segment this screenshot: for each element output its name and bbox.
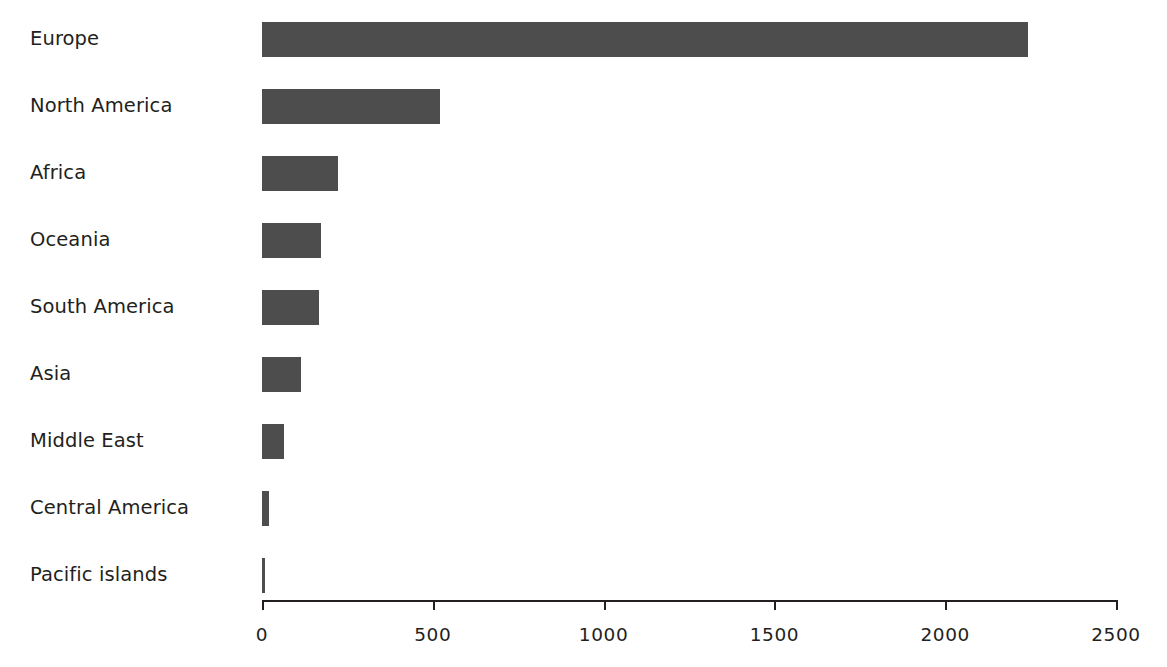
category-label-6: Middle East (30, 423, 245, 459)
x-tick-label-4: 2000 (885, 624, 1005, 645)
x-tick-5 (1116, 600, 1118, 610)
x-tick-label-5: 2500 (1056, 624, 1167, 645)
category-label-1: North America (30, 88, 245, 124)
x-tick-label-0: 0 (202, 624, 322, 645)
x-tick-0 (262, 600, 264, 610)
bar-5 (262, 357, 301, 392)
category-label-2: Africa (30, 155, 245, 191)
bar-8 (262, 558, 265, 593)
bar-4 (262, 290, 319, 325)
category-label-3: Oceania (30, 222, 245, 258)
bar-6 (262, 424, 284, 459)
x-tick-label-2: 1000 (544, 624, 664, 645)
x-tick-1 (433, 600, 435, 610)
x-tick-4 (945, 600, 947, 610)
category-label-4: South America (30, 289, 245, 325)
category-label-7: Central America (30, 490, 245, 526)
category-label-5: Asia (30, 356, 245, 392)
category-label-0: Europe (30, 21, 245, 57)
bar-7 (262, 491, 269, 526)
x-tick-label-1: 500 (373, 624, 493, 645)
x-tick-2 (604, 600, 606, 610)
bar-2 (262, 156, 338, 191)
horizontal-bar-chart: Europe North America Africa Oceania Sout… (0, 0, 1167, 667)
x-axis-line (262, 600, 1116, 602)
bar-3 (262, 223, 321, 258)
x-tick-3 (774, 600, 776, 610)
category-label-8: Pacific islands (30, 557, 245, 593)
bar-1 (262, 89, 440, 124)
x-tick-label-3: 1500 (714, 624, 834, 645)
bar-0 (262, 22, 1028, 57)
